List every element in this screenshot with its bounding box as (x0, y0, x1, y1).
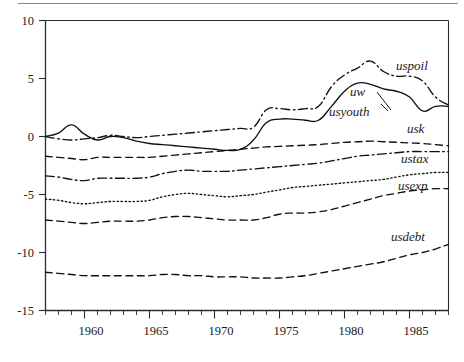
y-tick-label-neg5: -5 (24, 188, 34, 202)
series-label-usk: usk (407, 121, 425, 136)
label-leader-lines (377, 92, 391, 111)
line-chart-plot: 10 5 0 -5 -10 -15 1960 1965 1970 1975 19… (0, 0, 464, 362)
y-tick-label-neg10: -10 (17, 246, 34, 260)
x-tick-label-1980: 1980 (339, 324, 364, 338)
x-axis-tick-labels: 1960 1965 1970 1975 1980 1985 (79, 324, 429, 338)
series-line-usk (46, 151, 449, 180)
plot-frame (46, 21, 449, 311)
data-series-group (46, 61, 449, 278)
x-tick-label-1965: 1965 (144, 324, 169, 338)
y-axis-ticks (39, 21, 46, 311)
x-tick-label-1970: 1970 (209, 324, 234, 338)
series-labels: uspoil uw usyouth usk ustax usexp usdebt (329, 58, 429, 244)
x-tick-label-1960: 1960 (79, 324, 104, 338)
series-label-uspoil: uspoil (396, 58, 428, 73)
series-label-ustax: ustax (401, 151, 429, 166)
series-line-usexp (46, 189, 449, 224)
x-tick-label-1985: 1985 (404, 324, 429, 338)
x-tick-label-1975: 1975 (274, 324, 299, 338)
y-tick-label-neg15: -15 (17, 304, 34, 318)
series-label-usexp: usexp (398, 178, 428, 193)
y-tick-label-5: 5 (28, 72, 34, 86)
y-tick-label-10: 10 (22, 14, 35, 28)
x-axis-ticks (46, 311, 449, 319)
y-tick-label-0: 0 (28, 130, 34, 144)
chart-figure: 10 5 0 -5 -10 -15 1960 1965 1970 1975 19… (0, 0, 464, 362)
series-label-usyouth: usyouth (329, 104, 369, 119)
y-axis-tick-labels: 10 5 0 -5 -10 -15 (17, 14, 34, 318)
series-label-usdebt: usdebt (391, 229, 425, 244)
series-line-uspoil (46, 61, 449, 140)
series-line-uw (46, 82, 449, 150)
series-line-usyouth (46, 141, 449, 160)
series-label-uw: uw (350, 84, 366, 99)
series-line-usdebt (46, 244, 449, 278)
series-line-ustax (46, 172, 449, 203)
